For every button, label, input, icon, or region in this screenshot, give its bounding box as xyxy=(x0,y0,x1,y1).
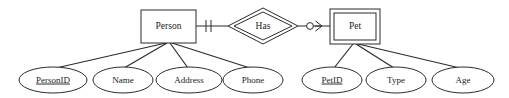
connector-has-pet xyxy=(298,21,330,31)
attribute-name[interactable]: Name xyxy=(93,67,153,93)
attribute-age-label: Age xyxy=(456,75,471,85)
entity-pet-label: Pet xyxy=(349,21,362,31)
connector-person-has xyxy=(196,20,228,32)
er-diagram-canvas: Person Has Pe xyxy=(0,0,509,98)
relationship-has[interactable]: Has xyxy=(228,8,298,44)
crowsfoot-prong-bottom xyxy=(316,26,323,31)
attribute-phone-label: Phone xyxy=(242,75,265,85)
attribute-age[interactable]: Age xyxy=(432,67,494,93)
attribute-type[interactable]: Type xyxy=(366,67,426,93)
attribute-person-id[interactable]: PersonID xyxy=(19,67,87,93)
entity-person[interactable]: Person xyxy=(141,10,196,43)
attribute-pet-id-label: PetID xyxy=(322,75,343,85)
attribute-pet-id[interactable]: PetID xyxy=(302,67,362,93)
attribute-address[interactable]: Address xyxy=(156,67,222,93)
relationship-has-label: Has xyxy=(256,21,271,31)
crowsfoot-prong-top xyxy=(316,21,323,26)
cardinality-zero-circle-icon xyxy=(307,23,314,30)
connector-person-to-name xyxy=(124,43,167,68)
attribute-connector-lines xyxy=(56,43,460,68)
attribute-address-label: Address xyxy=(174,75,204,85)
entity-pet[interactable]: Pet xyxy=(330,9,380,44)
connector-person-to-personid xyxy=(56,43,166,68)
connector-person-to-phone xyxy=(172,43,250,68)
attribute-phone[interactable]: Phone xyxy=(223,67,283,93)
attribute-type-label: Type xyxy=(387,75,405,85)
cardinality-crowsfoot-icon xyxy=(315,21,322,31)
attribute-name-label: Name xyxy=(112,75,134,85)
connector-pet-to-petid xyxy=(334,44,353,68)
connector-pet-to-age xyxy=(358,44,460,68)
er-diagram: Person Has Pe xyxy=(0,0,509,98)
entity-person-label: Person xyxy=(156,21,182,31)
attribute-person-id-label: PersonID xyxy=(36,75,70,85)
